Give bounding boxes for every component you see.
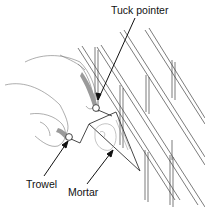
diagram-canvas: Tuck pointer Trowel Mortar xyxy=(0,0,205,207)
hand-lower xyxy=(5,84,68,147)
tuck-pointer-handle xyxy=(80,72,97,106)
label-trowel: Trowel xyxy=(26,179,57,190)
tuck-pointer-leader xyxy=(98,18,135,100)
label-mortar: Mortar xyxy=(68,187,98,198)
trowel xyxy=(71,110,140,171)
leader-lines xyxy=(44,18,135,184)
brick-wall xyxy=(78,28,205,207)
tuck-pointing-illustration xyxy=(0,0,205,207)
label-tuck-pointer: Tuck pointer xyxy=(111,5,168,16)
